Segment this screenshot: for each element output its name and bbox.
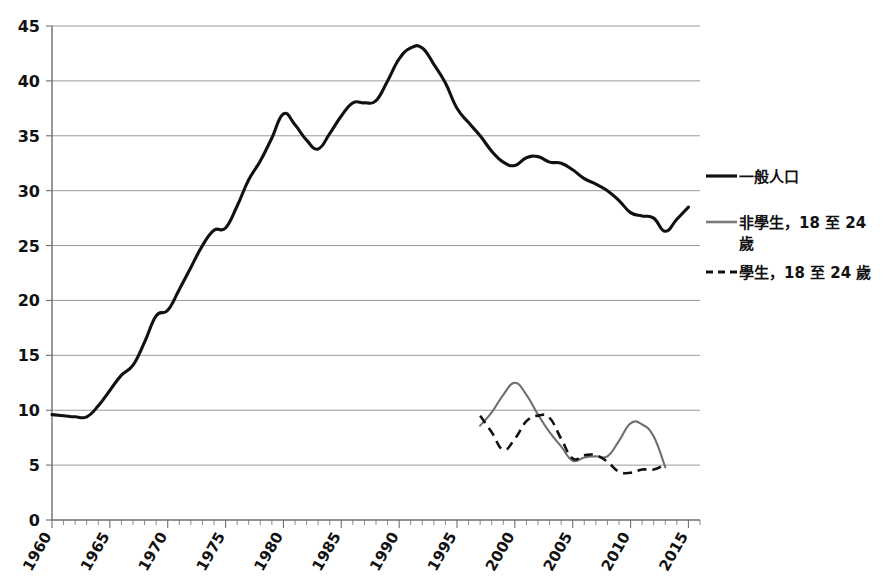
legend-label-nonstudent-line2: 歲 — [739, 235, 754, 253]
x-tick-label-1995: 1995 — [424, 529, 460, 574]
y-tick-label-20: 20 — [18, 291, 40, 310]
x-tick-label-1975: 1975 — [193, 529, 229, 574]
x-tick-label-1960: 1960 — [19, 529, 55, 574]
legend-label-general-population: 一般人口 — [739, 168, 799, 186]
x-tick-label-2015: 2015 — [655, 529, 691, 574]
y-tick-label-30: 30 — [18, 182, 40, 201]
x-tick-label-2000: 2000 — [482, 529, 518, 574]
gridlines-group — [52, 26, 700, 465]
line-chart: 051015202530354045 196019651970197519801… — [0, 0, 883, 585]
x-tick-label-2005: 2005 — [540, 529, 576, 574]
series-line-nonstudent — [480, 383, 665, 468]
y-tick-label-45: 45 — [18, 17, 40, 36]
chart-legend: 一般人口 非學生，18 至 24 歲 學生，18 至 24 歲 — [706, 168, 871, 282]
y-axis-tick-labels: 051015202530354045 — [18, 17, 40, 530]
y-tick-label-5: 5 — [29, 456, 40, 475]
x-tick-label-1980: 1980 — [250, 529, 286, 574]
legend-label-nonstudent-line1: 非學生，18 至 24 — [739, 214, 866, 232]
y-tick-label-15: 15 — [18, 346, 40, 365]
x-axis-tick-labels: 1960196519701975198019851990199520002005… — [19, 529, 692, 574]
x-tick-label-1990: 1990 — [366, 529, 402, 574]
series-line-general-population — [52, 46, 688, 418]
x-tick-label-2010: 2010 — [598, 529, 634, 574]
y-tick-label-25: 25 — [18, 237, 40, 256]
y-tick-label-35: 35 — [18, 127, 40, 146]
y-tick-label-10: 10 — [18, 401, 40, 420]
data-series-group — [52, 46, 688, 474]
y-tick-label-40: 40 — [18, 72, 40, 91]
x-tick-label-1970: 1970 — [135, 529, 171, 574]
legend-label-student: 學生，18 至 24 歲 — [739, 264, 871, 282]
series-line-student — [480, 415, 665, 474]
y-tick-label-0: 0 — [29, 511, 40, 530]
x-tick-label-1985: 1985 — [308, 529, 344, 574]
x-tick-label-1965: 1965 — [77, 529, 113, 574]
chart-container: 051015202530354045 196019651970197519801… — [0, 0, 883, 585]
